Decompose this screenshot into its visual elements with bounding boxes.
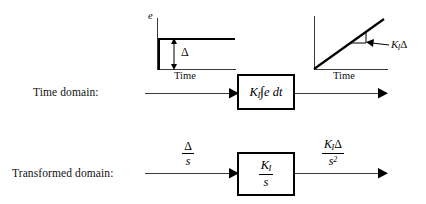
figure-canvas: e Δ Time KI [0, 0, 426, 204]
transformed-output-denominator-group: s2 [327, 155, 339, 167]
transformed-domain-output-arrowhead [378, 168, 388, 179]
output-plot-x-axis-label: Time [333, 70, 355, 81]
transformed-domain-input-line [145, 173, 233, 174]
time-block-differential: dt [273, 85, 283, 99]
time-block-integrand: e [264, 85, 270, 99]
input-plot-x-axis-label: Time [174, 70, 196, 81]
transfer-function-denominator: s [262, 176, 271, 189]
input-step-plot: e Δ Time [140, 12, 240, 74]
transformed-input-fraction: Δ s [182, 140, 194, 168]
transformed-domain-output-line [295, 173, 381, 174]
output-ramp-plot: KIΔ Time [305, 12, 425, 74]
transformed-domain-block[interactable]: KI s [237, 152, 295, 196]
slope-delta-symbol: Δ [400, 38, 407, 50]
transformed-input-numerator: Δ [182, 140, 194, 152]
time-domain-block[interactable]: KI∫edt [237, 74, 295, 110]
transformed-output-fraction: KIΔ s2 [322, 138, 344, 168]
transformed-input-denominator: s [184, 155, 193, 167]
transfer-function-numerator: KI [259, 159, 274, 173]
step-riser [158, 38, 160, 70]
transfer-function-gain: K [261, 158, 269, 172]
amplitude-delta-label: Δ [181, 45, 189, 60]
time-domain-input-line [145, 93, 233, 94]
transformed-output-signal-label: KIΔ s2 [322, 138, 344, 168]
transformed-output-delta: Δ [334, 137, 342, 151]
ramp-slope-label: KIΔ [391, 38, 407, 52]
input-plot-y-axis-label: e [148, 10, 153, 21]
transformed-output-denominator-exponent: 2 [333, 155, 337, 164]
slope-leader-arrow-icon [366, 38, 390, 50]
transfer-function-fraction: KI s [259, 159, 274, 189]
time-domain-block-expression: KI∫edt [250, 85, 283, 99]
time-domain-row-label: Time domain: [33, 86, 99, 98]
transformed-output-numerator: KIΔ [322, 138, 344, 152]
time-domain-output-line [295, 93, 381, 94]
transfer-function-gain-subscript: I [269, 163, 272, 173]
amplitude-arrow-icon [168, 38, 180, 70]
transformed-output-gain: K [324, 137, 332, 151]
time-domain-output-arrowhead [378, 88, 388, 99]
transformed-domain-block-expression: KI s [259, 159, 274, 189]
transformed-domain-row-label: Transformed domain: [12, 167, 113, 179]
transformed-input-signal-label: Δ s [182, 140, 194, 168]
